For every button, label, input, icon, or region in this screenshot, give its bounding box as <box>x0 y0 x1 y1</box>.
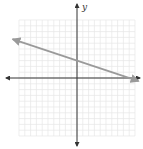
data-line <box>13 39 138 81</box>
coordinate-plane <box>0 0 143 149</box>
y-axis-label: y <box>82 2 87 12</box>
plotted-line <box>13 39 138 81</box>
